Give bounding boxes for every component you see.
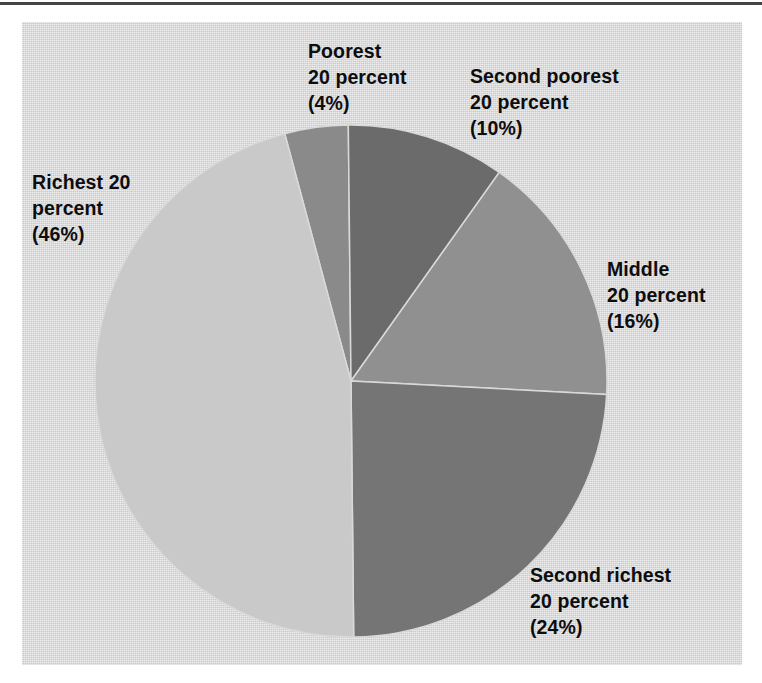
pie-label-second-poorest-line2: 20 percent (470, 89, 619, 115)
pie-label-second-richest-value: (24%) (530, 614, 671, 640)
pie-label-middle-line2: 20 percent (607, 282, 706, 308)
pie-label-second-richest-line1: Second richest (530, 562, 671, 588)
pie-label-poorest: Poorest 20 percent (4%) (308, 38, 407, 116)
pie-label-second-richest-line2: 20 percent (530, 588, 671, 614)
pie-label-richest-value: (46%) (32, 221, 131, 247)
pie-label-poorest-value: (4%) (308, 90, 407, 116)
pie-label-middle-line1: Middle (607, 256, 706, 282)
pie-label-poorest-line2: 20 percent (308, 64, 407, 90)
pie-label-middle: Middle 20 percent (16%) (607, 256, 706, 334)
pie-label-second-poorest: Second poorest 20 percent (10%) (470, 63, 619, 141)
pie-slice-group (95, 125, 607, 637)
pie-label-second-richest: Second richest 20 percent (24%) (530, 562, 671, 640)
pie-label-richest-line1: Richest 20 (32, 169, 131, 195)
pie-label-richest: Richest 20 percent (46%) (32, 169, 131, 247)
pie-label-richest-line2: percent (32, 195, 131, 221)
pie-label-poorest-line1: Poorest (308, 38, 407, 64)
scan-sheet: Poorest 20 percent (4%) Second poorest 2… (0, 0, 762, 683)
pie-label-middle-value: (16%) (607, 308, 706, 334)
pie-label-second-poorest-value: (10%) (470, 115, 619, 141)
pie-label-second-poorest-line1: Second poorest (470, 63, 619, 89)
